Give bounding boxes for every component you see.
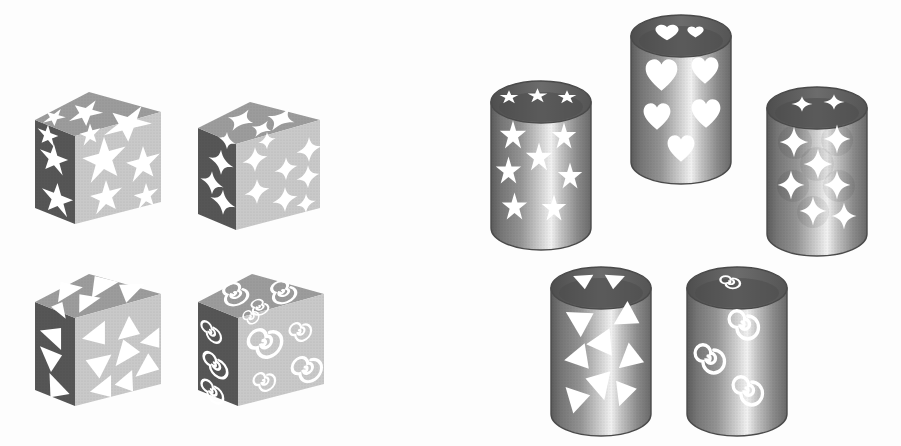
- cylinder-star5[interactable]: [489, 76, 593, 256]
- illustration-canvas: [0, 0, 901, 446]
- cylinder-heart[interactable]: [629, 10, 733, 190]
- cylinder-star4[interactable]: [765, 82, 869, 262]
- cylinder-spiral[interactable]: [685, 262, 789, 442]
- cylinder-triangle[interactable]: [549, 262, 653, 442]
- cylinders-group: [0, 0, 901, 446]
